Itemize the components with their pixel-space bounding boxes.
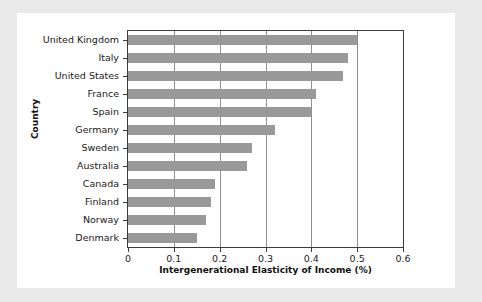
- y-axis-title: Country: [30, 99, 40, 139]
- bar-row: Canada: [128, 175, 403, 193]
- bar: [128, 107, 311, 117]
- x-tick-mark: [174, 247, 175, 252]
- bar: [128, 89, 316, 99]
- bar: [128, 233, 197, 243]
- bar-row: Denmark: [128, 229, 403, 247]
- bar: [128, 35, 357, 45]
- bar: [128, 179, 215, 189]
- y-tick-mark: [123, 202, 128, 203]
- x-tick-mark: [403, 247, 404, 252]
- x-tick-label: 0.3: [258, 254, 273, 264]
- y-tick-mark: [123, 166, 128, 167]
- bar-series: United KingdomItalyUnited StatesFranceSp…: [128, 31, 403, 247]
- bar: [128, 143, 252, 153]
- x-tick-mark: [128, 247, 129, 252]
- y-tick-label: Sweden: [81, 143, 119, 153]
- bar-row: United States: [128, 67, 403, 85]
- y-tick-mark: [123, 130, 128, 131]
- bar-row: France: [128, 85, 403, 103]
- y-tick-mark: [123, 238, 128, 239]
- y-tick-mark: [123, 148, 128, 149]
- y-tick-mark: [123, 58, 128, 59]
- bar-row: Germany: [128, 121, 403, 139]
- bar-row: Finland: [128, 193, 403, 211]
- y-tick-mark: [123, 112, 128, 113]
- y-tick-label: Denmark: [75, 233, 119, 243]
- bar: [128, 125, 275, 135]
- x-tick-label: 0.5: [350, 254, 365, 264]
- x-tick-mark: [311, 247, 312, 252]
- y-tick-mark: [123, 94, 128, 95]
- x-tick-label: 0: [125, 254, 131, 264]
- y-tick-label: Australia: [77, 161, 119, 171]
- y-tick-mark: [123, 76, 128, 77]
- y-tick-label: Germany: [75, 125, 119, 135]
- x-axis-title: Intergenerational Elasticity of Income (…: [127, 265, 404, 275]
- y-tick-label: United States: [55, 71, 119, 81]
- bar-row: Norway: [128, 211, 403, 229]
- x-tick-label: 0.2: [212, 254, 227, 264]
- bar-row: Spain: [128, 103, 403, 121]
- bar-row: Australia: [128, 157, 403, 175]
- x-tick-mark: [266, 247, 267, 252]
- bar: [128, 53, 348, 63]
- y-tick-mark: [123, 184, 128, 185]
- y-tick-label: Finland: [85, 197, 119, 207]
- bar: [128, 215, 206, 225]
- y-tick-label: Norway: [83, 215, 119, 225]
- x-tick-mark: [357, 247, 358, 252]
- x-tick-mark: [220, 247, 221, 252]
- x-tick-label: 0.4: [304, 254, 319, 264]
- y-tick-mark: [123, 40, 128, 41]
- y-tick-label: Canada: [83, 179, 119, 189]
- y-tick-label: Spain: [92, 107, 119, 117]
- plot-area: United KingdomItalyUnited StatesFranceSp…: [127, 30, 404, 248]
- y-tick-label: Italy: [98, 53, 119, 63]
- y-tick-label: France: [87, 89, 119, 99]
- bar: [128, 197, 211, 207]
- x-tick-label: 0.1: [166, 254, 181, 264]
- y-tick-label: United Kingdom: [43, 35, 119, 45]
- chart-card: Country United KingdomItalyUnited States…: [17, 13, 455, 288]
- bar: [128, 161, 247, 171]
- bar-row: Italy: [128, 49, 403, 67]
- bar-row: Sweden: [128, 139, 403, 157]
- x-tick-label: 0.6: [395, 254, 410, 264]
- bar-row: United Kingdom: [128, 31, 403, 49]
- y-tick-mark: [123, 220, 128, 221]
- bar: [128, 71, 343, 81]
